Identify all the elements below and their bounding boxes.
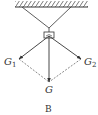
label-g: G (45, 84, 53, 95)
left-rope (22, 7, 49, 28)
ceiling (15, 1, 88, 7)
right-rope (49, 7, 71, 28)
hook-icon (46, 35, 52, 37)
force-vectors (19, 36, 81, 82)
force-g2-arrow (49, 36, 81, 59)
parallelogram-edges (19, 59, 81, 82)
ceiling-hatching (15, 1, 88, 7)
dashed-edge-left (19, 59, 49, 82)
dashed-edge-right (49, 59, 81, 82)
ropes (22, 7, 71, 32)
force-diagram: G1 G2 G B (0, 0, 98, 115)
label-g2: G2 (84, 56, 96, 69)
figure-caption: B (45, 104, 52, 114)
label-g1: G1 (4, 56, 16, 69)
force-g1-arrow (19, 36, 49, 59)
